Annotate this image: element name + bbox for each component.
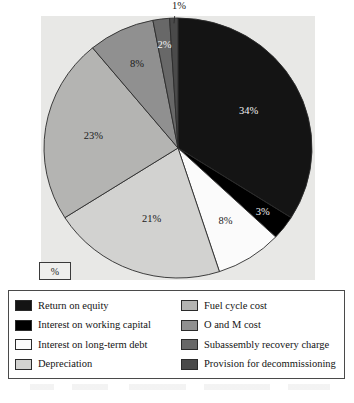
legend-column-left: Return on equityInterest on working capi… — [15, 296, 183, 374]
pie-svg: 34%3%8%21%23%8%2% — [41, 16, 315, 280]
legend-item[interactable]: Interest on long-term debt — [15, 335, 183, 355]
legend-item[interactable]: Depreciation — [15, 355, 183, 375]
legend-swatch — [181, 359, 198, 370]
legend-item[interactable]: Provision for decommissioning — [181, 355, 343, 375]
pie-slices — [44, 18, 312, 278]
legend-label: Return on equity — [38, 301, 109, 312]
pie-chart: 34%3%8%21%23%8%2% — [41, 16, 315, 280]
percent-caption-box: % — [39, 262, 71, 280]
legend-swatch — [15, 339, 32, 350]
legend-item[interactable]: Return on equity — [15, 296, 183, 316]
slice-label: 2% — [158, 39, 172, 50]
legend-label: Fuel cycle cost — [204, 301, 267, 312]
legend-item[interactable]: O and M cost — [181, 316, 343, 336]
slice-label: 34% — [239, 105, 259, 116]
slice-label: 21% — [142, 213, 162, 224]
slice-label: 3% — [256, 206, 270, 217]
slice-label: 8% — [218, 215, 232, 226]
slice-label: 23% — [84, 130, 104, 141]
legend-swatch — [181, 339, 198, 350]
legend-label: Depreciation — [38, 359, 92, 370]
legend-swatch — [15, 300, 32, 311]
legend-item[interactable]: Interest on working capital — [15, 316, 183, 336]
legend-swatch — [15, 359, 32, 370]
percent-caption-text: % — [51, 266, 59, 277]
legend-label: Subassembly recovery charge — [204, 340, 329, 351]
legend-label: Interest on long-term debt — [38, 340, 147, 351]
legend-column-right: Fuel cycle costO and M costSubassembly r… — [181, 296, 343, 374]
slice-label-provision-for-decommissioning: 1% — [172, 0, 186, 11]
pie-chart-figure: 34%3%8%21%23%8%2% 1% % Return on equityI… — [0, 0, 354, 403]
legend-label: Provision for decommissioning — [204, 359, 336, 370]
legend-item[interactable]: Subassembly recovery charge — [181, 335, 343, 355]
legend-item[interactable]: Fuel cycle cost — [181, 296, 343, 316]
legend-swatch — [181, 300, 198, 311]
slice-label: 8% — [130, 58, 144, 69]
legend-label: O and M cost — [204, 320, 261, 331]
scan-artifact — [30, 384, 330, 390]
legend-swatch — [181, 320, 198, 331]
legend-label: Interest on working capital — [38, 320, 151, 331]
legend-swatch — [15, 320, 32, 331]
legend: Return on equityInterest on working capi… — [8, 290, 345, 379]
